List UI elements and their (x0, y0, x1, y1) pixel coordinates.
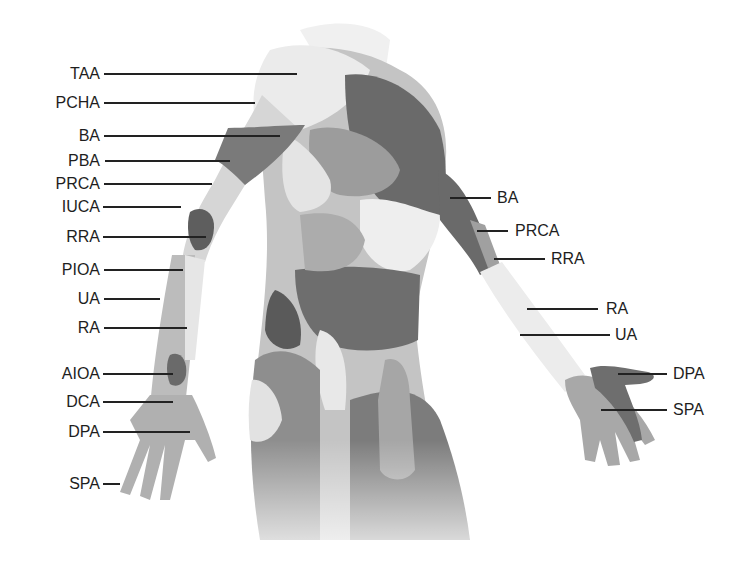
leader-line-ra (104, 327, 187, 329)
leader-line-right-ba (450, 197, 491, 199)
leader-line-dca (103, 401, 173, 403)
label-iuca: IUCA (8, 198, 100, 216)
leader-line-prca (104, 183, 212, 185)
leader-line-aioa (103, 373, 173, 375)
body-figure-illustration (0, 0, 746, 580)
label-right-prca: PRCA (515, 222, 559, 240)
leader-line-taa (104, 73, 297, 75)
leader-line-ua (104, 298, 160, 300)
label-ba: BA (8, 127, 100, 145)
leader-line-pcha (104, 102, 255, 104)
leader-line-right-dpa (618, 373, 667, 375)
label-taa: TAA (8, 65, 100, 83)
label-pba: PBA (8, 152, 100, 170)
leader-line-pba (105, 160, 230, 162)
angiosome-diagram: TAA PCHA BA PBA PRCA IUCA RRA PIOA UA RA… (0, 0, 746, 580)
label-pcha: PCHA (8, 94, 100, 112)
leader-line-iuca (103, 206, 181, 208)
label-right-ba: BA (497, 189, 518, 207)
leader-line-right-rra (494, 258, 545, 260)
label-right-spa: SPA (673, 401, 704, 419)
label-right-ua: UA (615, 326, 637, 344)
label-dpa: DPA (8, 423, 100, 441)
leader-line-right-ra (527, 308, 598, 310)
label-ua: UA (8, 290, 100, 308)
leader-line-right-spa (601, 409, 667, 411)
label-aioa: AIOA (8, 365, 100, 383)
leader-line-rra (103, 236, 206, 238)
leader-line-pioa (104, 269, 183, 271)
leader-line-spa (103, 483, 120, 485)
left-forearm-light (185, 255, 205, 360)
leader-line-dpa (103, 431, 190, 433)
label-prca: PRCA (8, 175, 100, 193)
leader-line-right-prca (477, 230, 508, 232)
label-spa: SPA (8, 475, 100, 493)
label-right-rra: RRA (551, 250, 585, 268)
right-forearm (480, 262, 585, 392)
label-right-dpa: DPA (673, 365, 705, 383)
label-dca: DCA (8, 393, 100, 411)
leader-line-ba (104, 135, 280, 137)
label-pioa: PIOA (8, 261, 100, 279)
label-rra: RRA (8, 228, 100, 246)
left-hand (120, 395, 216, 500)
label-ra: RA (8, 319, 100, 337)
label-right-ra: RA (606, 300, 628, 318)
leader-line-right-ua (520, 334, 610, 336)
